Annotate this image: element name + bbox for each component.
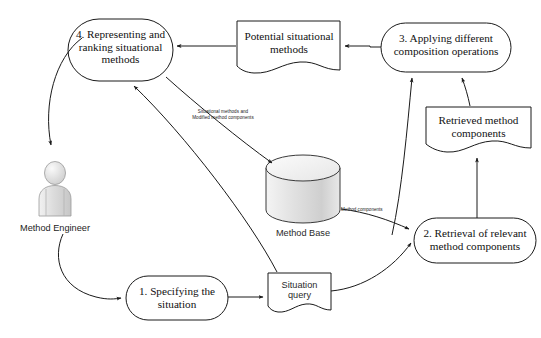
edge-process2-area-to-process3 <box>392 78 412 235</box>
edge-process4-to-methodbase <box>166 77 272 163</box>
process-2-shape[interactable] <box>414 218 536 263</box>
doc-situation-query-shape[interactable] <box>268 273 331 312</box>
process-1-shape[interactable] <box>126 276 228 320</box>
method-base-cylinder[interactable] <box>266 155 340 223</box>
doc-retrieved-method-components-shape[interactable] <box>426 107 531 152</box>
diagram-canvas: Process 4 --> Potential situational meth… <box>0 0 541 338</box>
process-4-shape[interactable] <box>68 19 173 81</box>
person-actor-icon <box>39 162 71 217</box>
edge-methodbase-to-process2 <box>341 209 409 229</box>
diagram-svg: Process 4 --> Potential situational meth… <box>0 0 541 338</box>
edge-engineer-to-process1 <box>58 234 121 299</box>
process-3-shape[interactable] <box>381 23 511 72</box>
edge-situation-query-to-process4 <box>134 86 277 272</box>
edge-process3-to-potential <box>345 46 381 47</box>
doc-potential-situational-methods-shape[interactable] <box>237 21 340 73</box>
edge-situation-query-to-process2 <box>331 243 411 291</box>
edge-retrieved-to-process3 <box>462 78 470 106</box>
